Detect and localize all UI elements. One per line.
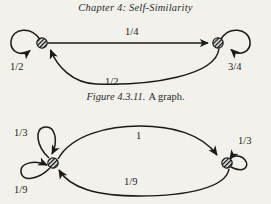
graph-two-left-self-loop-upper [38, 127, 55, 158]
graph-two-diagram [0, 106, 271, 204]
graph-one-node-right [213, 38, 223, 48]
graph-two-bottom-edge [59, 169, 229, 196]
graph-one-node-left [37, 38, 47, 48]
graph-one-label-right-self-loop: 3/4 [228, 62, 241, 73]
chapter-header: Chapter 4: Self-Similarity [0, 2, 271, 13]
figure-caption: Figure 4.3.11.A graph. [0, 91, 271, 102]
graph-two-node-right [222, 158, 232, 168]
graph-one-left-self-loop [11, 30, 40, 53]
graph-two-label-left-self-loop-lower: 1/9 [14, 185, 27, 196]
graph-two-left-self-loop-lower [21, 162, 50, 178]
figure-caption-number: Figure 4.3.11. [86, 91, 145, 102]
graph-one-right-self-loop [221, 30, 250, 53]
figure-caption-text: A graph. [148, 91, 184, 102]
graph-one-label-left-self-loop: 1/2 [10, 62, 23, 73]
graph-one-label-top-edge: 1/4 [125, 27, 138, 38]
graph-one-bottom-edge [51, 49, 220, 85]
graph-one-label-bottom-edge: 1/2 [105, 77, 118, 88]
graph-two-label-left-self-loop-upper: 1/3 [14, 128, 27, 139]
textbook-page: Chapter 4: Self-Similarity 1/2 1/4 1/2 3… [0, 0, 271, 204]
graph-two-node-left [48, 158, 58, 168]
graph-two-label-right-self-loop: 1/3 [238, 136, 251, 147]
graph-two-label-top-edge: 1 [136, 131, 141, 142]
graph-two-label-bottom-edge: 1/9 [124, 177, 137, 188]
